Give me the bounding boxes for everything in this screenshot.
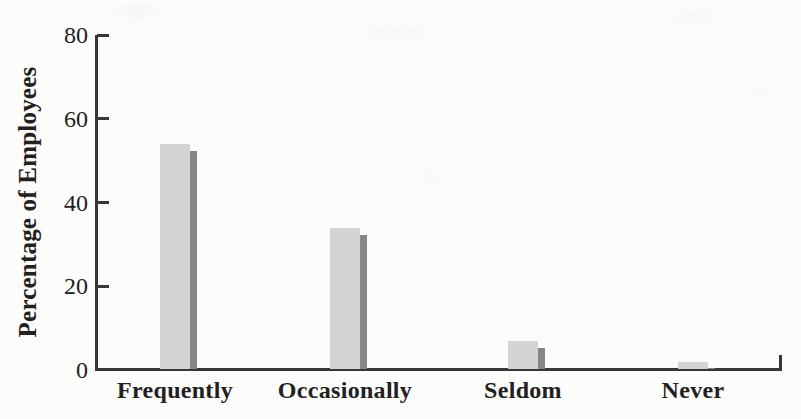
- y-tick-label: 20: [28, 274, 88, 298]
- category-label-seldom: Seldom: [438, 377, 608, 404]
- y-tick-label: 60: [28, 107, 88, 131]
- y-tick-mark: [97, 34, 109, 37]
- bar-never: [678, 362, 708, 369]
- category-label-frequently: Frequently: [90, 377, 260, 404]
- x-axis-end-tick: [779, 355, 782, 371]
- y-tick-mark: [97, 117, 109, 120]
- y-tick-mark: [97, 285, 109, 288]
- bar-seldom: [508, 341, 538, 369]
- category-label-never: Never: [608, 377, 778, 404]
- y-tick-label: 0: [28, 358, 88, 382]
- bar-chart: Percentage of Employees 020406080 Freque…: [0, 0, 801, 419]
- bar-occasionally: [330, 228, 360, 369]
- y-tick-label: 40: [28, 191, 88, 215]
- y-tick-mark: [97, 201, 109, 204]
- bar-frequently: [160, 144, 190, 369]
- y-tick-label: 80: [28, 23, 88, 47]
- scanned-chart-page: Percentage of Employees 020406080 Freque…: [0, 0, 801, 419]
- category-label-occasionally: Occasionally: [260, 377, 430, 404]
